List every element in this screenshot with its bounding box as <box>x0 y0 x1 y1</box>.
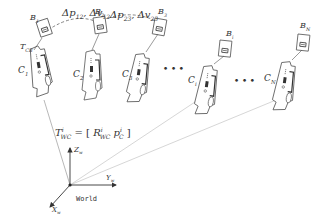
label-y-axis: Yw <box>106 175 114 184</box>
delta-p-symbol: Δp <box>110 9 124 20</box>
ellipsis-1: • • • <box>163 64 184 72</box>
camera-symbol: C <box>122 69 129 79</box>
board-index: i <box>232 35 234 40</box>
ray-to-ci <box>70 100 198 185</box>
delta-p-symbol: Δp <box>62 7 76 18</box>
ray-to-c1 <box>44 100 70 185</box>
pose-equation: TiWC = [ RiWC piC ] <box>55 127 131 140</box>
label-z-axis: Zw <box>74 147 82 156</box>
delta-v-symbol: , Δv <box>131 9 150 20</box>
label-x-axis: Xw <box>52 207 61 216</box>
x-axis-subscript: w <box>57 210 61 215</box>
camera-symbol: C <box>264 73 271 83</box>
camera-index: N <box>271 79 276 85</box>
closing-bracket: ] <box>124 127 131 138</box>
camera-index: i <box>195 81 197 87</box>
camera-symbol: C <box>18 65 25 75</box>
label-cn: CN <box>264 74 276 85</box>
board-index: 2 <box>101 13 104 18</box>
x-axis <box>50 185 70 207</box>
camera-cn <box>271 60 298 112</box>
position-superscript: i <box>120 126 122 133</box>
camera-c2 <box>82 50 102 100</box>
z-axis-subscript: w <box>79 150 83 155</box>
label-c3: C3 <box>122 70 132 81</box>
label-c1: C1 <box>18 66 28 77</box>
transform-subscript: CB <box>25 48 32 53</box>
ray-to-cn <box>70 100 276 185</box>
label-b2: B2 <box>95 8 104 18</box>
board-bi <box>218 40 232 57</box>
board-index: 3 <box>164 13 167 18</box>
edge-label-23: Δp23, Δv23 <box>110 10 158 22</box>
label-bi: Bi <box>226 30 233 40</box>
board-index: 1 <box>36 19 39 24</box>
trajectory-arc-12 <box>48 18 97 30</box>
board-index: N <box>306 27 310 32</box>
label-tcb: TCB <box>20 43 33 53</box>
camera-symbol: C <box>188 75 195 85</box>
y-axis-subscript: w <box>111 178 115 183</box>
camera-ci <box>193 64 220 116</box>
label-b3: B3 <box>158 8 167 18</box>
label-b1: B1 <box>30 14 39 24</box>
label-c2: C2 <box>73 70 83 81</box>
camera-index: 2 <box>80 75 83 81</box>
diagram-canvas <box>0 0 327 224</box>
rotation-subscript: WC <box>100 133 111 140</box>
rotation-superscript: i <box>101 126 103 133</box>
pose-t-subscript: WC <box>61 133 72 140</box>
camera-index: 3 <box>129 75 132 81</box>
label-bn: BN <box>300 22 310 32</box>
world-origin <box>68 183 71 186</box>
board-bn <box>296 34 310 51</box>
label-ci: Ci <box>188 76 197 87</box>
ellipsis-2: • • • <box>234 76 255 84</box>
camera-symbol: C <box>73 69 80 79</box>
camera-index: 1 <box>25 71 28 77</box>
equals-bracket: = [ <box>71 127 93 138</box>
delta-v-subscript: 23 <box>151 15 159 22</box>
pose-t-superscript: i <box>62 126 64 133</box>
world-label: World <box>76 196 97 203</box>
